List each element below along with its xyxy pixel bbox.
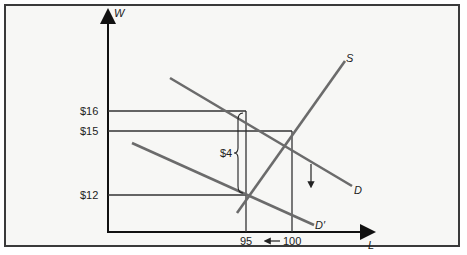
tick-l100: 100 bbox=[283, 235, 301, 247]
tick-w16: $16 bbox=[80, 105, 98, 117]
chart-svg: W L $16 $15 $12 95 100 $4 S D D′ bbox=[0, 0, 467, 255]
tick-l95: 95 bbox=[240, 235, 252, 247]
demand-label: D bbox=[354, 184, 362, 196]
supply-curve-s bbox=[237, 61, 345, 213]
brace-label: $4 bbox=[220, 147, 232, 159]
tick-w12: $12 bbox=[80, 189, 98, 201]
tick-w15: $15 bbox=[80, 125, 98, 137]
supply-label: S bbox=[346, 52, 354, 64]
brace-icon bbox=[234, 113, 243, 193]
demand-prime-label: D′ bbox=[315, 219, 326, 231]
y-axis-label: W bbox=[114, 7, 126, 19]
demand-curve-d bbox=[170, 78, 352, 186]
x-axis-label: L bbox=[368, 239, 374, 251]
